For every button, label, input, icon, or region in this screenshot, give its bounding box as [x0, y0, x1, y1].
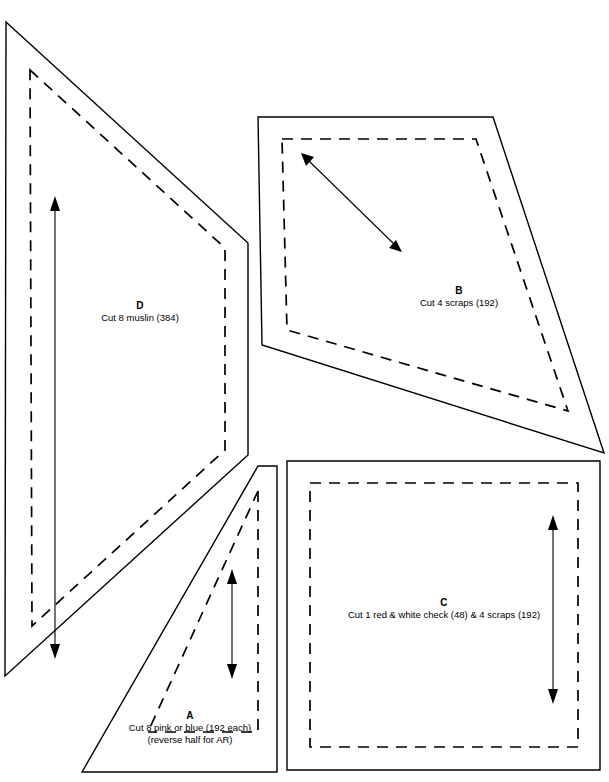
piece-c-label: C Cut 1 red & white check (48) & 4 scrap… [330, 597, 558, 621]
piece-a-description-secondary: (reverse half for AR) [108, 734, 272, 746]
piece-a-label: A Cut 8 pink or blue (192 each) (reverse… [108, 710, 272, 745]
piece-d-letter: D [82, 300, 198, 312]
piece-a-description: Cut 8 pink or blue (192 each) [108, 722, 272, 734]
piece-d-label: D Cut 8 muslin (384) [82, 300, 198, 324]
pattern-drawing-canvas [0, 0, 609, 782]
piece-c-description: Cut 1 red & white check (48) & 4 scraps … [330, 609, 558, 621]
piece-b-letter: B [400, 285, 518, 297]
piece-d-description: Cut 8 muslin (384) [82, 312, 198, 324]
quilt-pattern-sheet: D Cut 8 muslin (384) B Cut 4 scraps (192… [0, 0, 609, 782]
piece-a-letter: A [108, 710, 272, 722]
piece-b-label: B Cut 4 scraps (192) [400, 285, 518, 309]
piece-c-letter: C [330, 597, 558, 609]
piece-b-description: Cut 4 scraps (192) [400, 297, 518, 309]
